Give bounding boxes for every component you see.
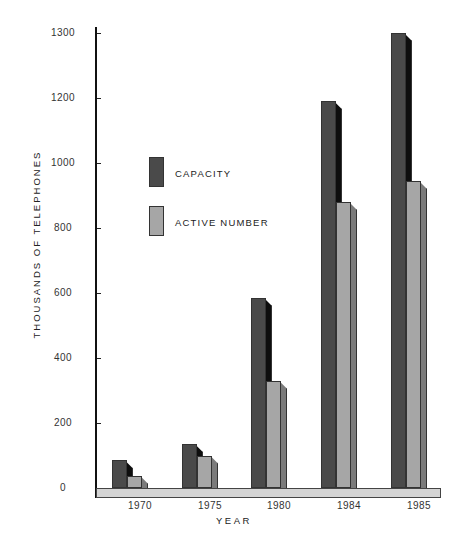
y-tick-mark [97, 98, 101, 99]
bar-capacity-1975 [182, 444, 197, 488]
x-tick-label-1985: 1985 [394, 500, 444, 511]
y-tick-label: 1200 [43, 92, 83, 103]
bar-side-active-1970 [141, 477, 148, 488]
bar-side-active-1980 [280, 382, 287, 488]
y-tick-mark [97, 228, 101, 229]
x-tick-label-1984: 1984 [324, 500, 374, 511]
bar-active-1985 [406, 181, 421, 488]
legend-swatch-active [149, 206, 164, 236]
floor-slab [96, 488, 441, 498]
y-tick-mark [97, 358, 101, 359]
bar-side-active-1975 [211, 457, 218, 489]
bar-side-active-1984 [350, 203, 357, 488]
y-tick-label: 600 [43, 287, 83, 298]
x-axis-label: YEAR [216, 515, 252, 526]
bar-capacity-1984 [321, 101, 336, 488]
bar-active-1970 [127, 476, 142, 488]
y-tick-mark [97, 33, 101, 34]
legend-label-capacity: CAPACITY [175, 168, 231, 179]
y-tick-label: 200 [43, 417, 83, 428]
bar-active-1975 [197, 456, 212, 489]
y-tick-mark [97, 423, 101, 424]
y-tick-label: 1300 [43, 27, 83, 38]
y-tick-mark [97, 293, 101, 294]
y-tick-label: 1000 [43, 157, 83, 168]
y-tick-label: 0 [43, 482, 83, 493]
bar-capacity-1980 [251, 298, 266, 488]
x-tick-label-1970: 1970 [115, 500, 165, 511]
bar-side-active-1985 [420, 182, 427, 488]
y-tick-label: 800 [43, 222, 83, 233]
bar-active-1984 [336, 202, 351, 488]
bar-capacity-1970 [112, 460, 127, 488]
x-tick-label-1975: 1975 [185, 500, 235, 511]
x-tick-label-1980: 1980 [254, 500, 304, 511]
y-tick-label: 400 [43, 352, 83, 363]
legend-label-active: ACTIVE NUMBER [175, 217, 269, 228]
bar-active-1980 [266, 381, 281, 488]
bar-capacity-1985 [391, 33, 406, 488]
y-tick-mark [97, 163, 101, 164]
y-axis-label: THOUSANDS OF TELEPHONES [31, 179, 42, 339]
legend-swatch-capacity [149, 157, 164, 187]
